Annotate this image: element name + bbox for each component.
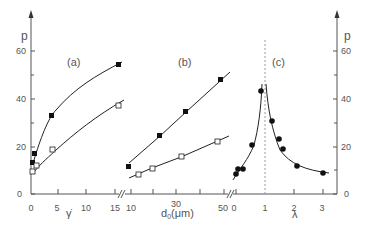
data-point: [249, 142, 255, 148]
data-point: [280, 146, 286, 152]
data-point: [50, 147, 55, 152]
y-tick-left: 60: [16, 46, 26, 56]
data-point: [320, 170, 326, 176]
data-point: [126, 164, 131, 169]
markers-c: [233, 88, 326, 177]
x-axis-label-b: d0(μm): [161, 207, 194, 220]
data-point: [269, 118, 275, 124]
data-point: [116, 103, 121, 108]
curve-a-filled: [34, 62, 122, 160]
data-point: [116, 62, 121, 67]
y-axis-arrow-icon: [29, 10, 34, 18]
data-point: [258, 88, 264, 94]
data-point: [136, 172, 141, 177]
data-point: [235, 166, 241, 172]
fit-curves: [34, 62, 329, 180]
x-axis-label-a: γ̇: [66, 207, 73, 219]
x-tick-c: 3: [319, 203, 324, 213]
axes: [31, 16, 337, 198]
x-axis-label-c: λ: [292, 208, 298, 220]
panel-label-b: (b): [178, 56, 191, 68]
y-axis-label-left: p: [21, 29, 28, 43]
curve-c-right: [266, 84, 329, 173]
curve-a-open: [34, 100, 124, 172]
y-axis-label-right: p: [344, 29, 351, 43]
data-point: [215, 139, 220, 144]
data-point: [218, 77, 223, 82]
curve-b-filled: [129, 72, 230, 163]
y-tick-right: 0: [344, 189, 349, 199]
x-tick-c: 0: [231, 203, 236, 213]
y-tick-left: 20: [16, 142, 26, 152]
axis-break-icon: [227, 190, 234, 198]
x-tick-a: 10: [81, 203, 91, 213]
y-tick-left: 40: [16, 94, 26, 104]
x-tick-b: 50: [218, 203, 228, 213]
markers-a-filled: [30, 62, 121, 165]
data-point: [183, 109, 188, 114]
data-point: [32, 151, 37, 156]
data-point: [34, 163, 39, 168]
panel-label-c: (c): [272, 56, 285, 68]
y-tick-right: 20: [341, 142, 351, 152]
data-point: [179, 154, 184, 159]
data-point: [49, 113, 54, 118]
panel-label-a: (a): [67, 56, 80, 68]
data-point: [276, 136, 282, 142]
y-axis-arrow-icon: [335, 10, 340, 18]
x-tick-a: 5: [54, 203, 59, 213]
axis-break-icon: [118, 190, 125, 198]
data-point: [240, 166, 246, 172]
y-tick-left: 0: [17, 189, 22, 199]
data-point: [294, 163, 300, 169]
y-tick-right: 40: [341, 94, 351, 104]
data-point: [233, 171, 239, 177]
x-tick-b: 10: [126, 203, 136, 213]
y-tick-right: 60: [341, 46, 351, 56]
tick-labels: 0 20 40 60 0 20 40 60 0 5 10 15 10 30 50…: [16, 46, 351, 213]
x-tick-c: 1: [262, 203, 267, 213]
curve-c-left: [233, 84, 262, 180]
data-point: [30, 169, 35, 174]
data-point: [157, 133, 162, 138]
x-tick-a: 15: [110, 203, 120, 213]
data-point: [150, 166, 155, 171]
chart: 0 20 40 60 0 20 40 60 0 5 10 15 10 30 50…: [0, 0, 372, 229]
x-tick-a: 0: [28, 203, 33, 213]
markers-a-open: [30, 103, 121, 174]
